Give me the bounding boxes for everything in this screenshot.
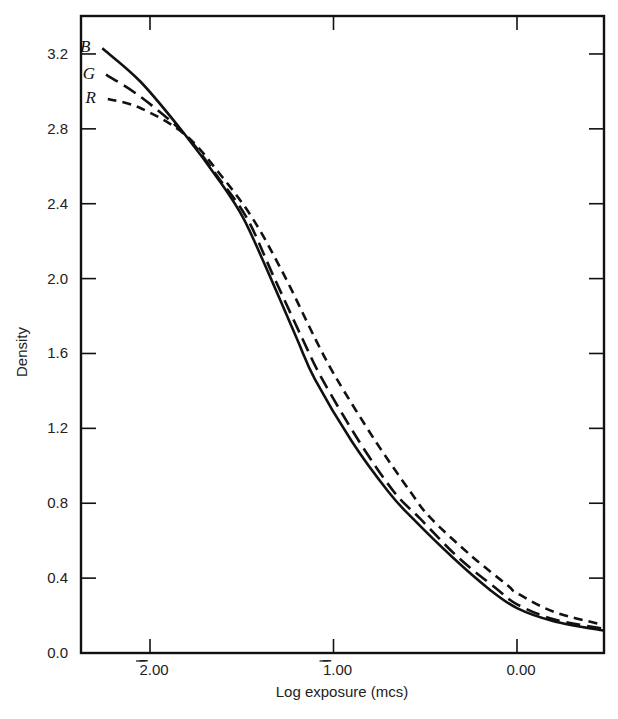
x-tick-label: 2.00 xyxy=(139,661,168,678)
y-axis-ticks: 0.00.40.81.21.62.02.42.83.2 xyxy=(47,45,604,661)
y-tick-label: 2.0 xyxy=(47,270,68,287)
y-tick-label: 0.4 xyxy=(47,569,68,586)
y-tick-label: 1.6 xyxy=(47,344,68,361)
y-tick-label: 1.2 xyxy=(47,419,68,436)
series-labels: BGR xyxy=(80,37,97,107)
y-tick-label: 2.4 xyxy=(47,195,68,212)
y-tick-label: 2.8 xyxy=(47,120,68,137)
x-axis-title: Log exposure (mcs) xyxy=(276,683,409,700)
y-axis-title: Density xyxy=(13,326,30,377)
series-label-b: B xyxy=(80,37,91,56)
bar-digit: 2 xyxy=(139,661,147,678)
curve-b xyxy=(102,48,603,630)
series-label-r: R xyxy=(85,88,97,107)
y-tick-label: 0.0 xyxy=(47,644,68,661)
x-tick-label: 1.00 xyxy=(323,661,352,678)
y-tick-label: 3.2 xyxy=(47,45,68,62)
series-label-g: G xyxy=(83,64,95,83)
x-tick-label: 0.00 xyxy=(506,661,535,678)
bar-digit: 1 xyxy=(323,661,331,678)
curve-g xyxy=(106,75,603,629)
curves xyxy=(102,48,603,630)
y-tick-label: 0.8 xyxy=(47,494,68,511)
characteristic-curve-chart: 0.00.40.81.21.62.02.42.83.2 2.001.000.00… xyxy=(0,0,618,719)
curve-r xyxy=(108,99,603,625)
